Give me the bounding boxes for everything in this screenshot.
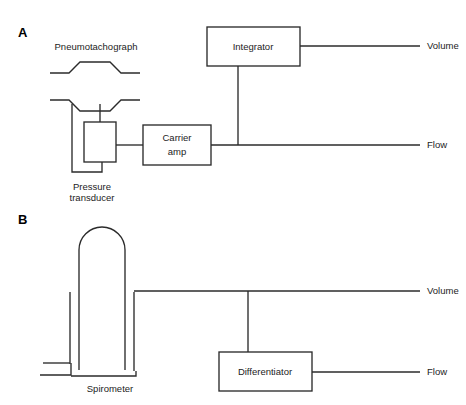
diagram-canvas: A Pneumotachograph Pressure transducer C… bbox=[0, 0, 466, 405]
panel-b-group: B Spirometer Differentiator Volume Flow bbox=[18, 212, 459, 394]
pressure-transducer-label-line1: Pressure bbox=[73, 181, 111, 192]
carrier-amp-label-line1: Carrier bbox=[162, 132, 191, 143]
panel-a-letter: A bbox=[18, 25, 28, 40]
spirometer-bell bbox=[79, 227, 125, 370]
pneumotachograph-label: Pneumotachograph bbox=[55, 41, 138, 52]
spirometer-tank-bottom bbox=[71, 371, 136, 376]
panel-b-flow-output-label: Flow bbox=[427, 366, 447, 377]
pneumotachograph-upper-wall bbox=[50, 62, 140, 73]
pneumotachograph-lower-wall bbox=[50, 100, 140, 111]
spirometer-label: Spirometer bbox=[87, 383, 133, 394]
spirometer-mouthpiece-tube bbox=[40, 363, 71, 375]
figure-root: A Pneumotachograph Pressure transducer C… bbox=[0, 0, 466, 405]
panel-a-volume-output-label: Volume bbox=[427, 40, 459, 51]
carrier-amp-box bbox=[143, 125, 211, 165]
panel-b-letter: B bbox=[18, 212, 27, 227]
integrator-label: Integrator bbox=[233, 41, 274, 52]
panel-a-group: A Pneumotachograph Pressure transducer C… bbox=[18, 25, 459, 203]
carrier-amp-label-line2: amp bbox=[168, 146, 186, 157]
differentiator-label: Differentiator bbox=[238, 366, 292, 377]
pressure-transducer-label-line2: transducer bbox=[70, 192, 115, 203]
pressure-transducer-body bbox=[84, 122, 116, 162]
panel-a-flow-output-label: Flow bbox=[427, 139, 447, 150]
panel-b-volume-output-label: Volume bbox=[427, 285, 459, 296]
